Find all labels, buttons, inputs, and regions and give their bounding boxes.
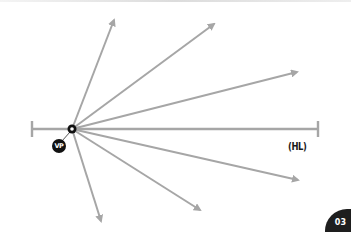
perspective-ray-arrow xyxy=(72,72,297,129)
perspective-ray-arrow xyxy=(72,129,101,221)
horizon-line-label: (HL) xyxy=(288,140,306,153)
perspective-ray-arrow xyxy=(72,129,200,210)
perspective-diagram xyxy=(0,0,351,238)
page-number: 03 xyxy=(335,218,346,227)
vp-label-badge: VP xyxy=(52,139,66,153)
perspective-ray-arrow xyxy=(72,129,298,180)
perspective-rays xyxy=(72,20,298,221)
